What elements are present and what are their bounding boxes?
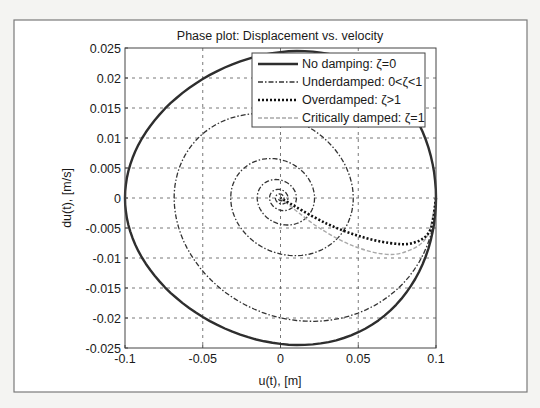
x-tick-label: 0.1 bbox=[427, 352, 444, 366]
y-tick-label: 0.02 bbox=[97, 72, 121, 86]
y-tick-label: -0.015 bbox=[86, 282, 121, 296]
x-tick-label: 0 bbox=[277, 352, 284, 366]
y-tick-label: 0.015 bbox=[90, 102, 121, 116]
chart-title: Phase plot: Displacement vs. velocity bbox=[177, 29, 384, 43]
x-tick-label: -0.05 bbox=[189, 352, 218, 366]
legend-label: Overdamped: ζ>1 bbox=[302, 93, 401, 107]
legend-label: No damping: ζ=0 bbox=[302, 57, 396, 71]
legend-label: Underdamped: 0<ζ<1 bbox=[302, 75, 422, 89]
y-tick-label: -0.01 bbox=[93, 252, 122, 266]
y-tick-label: 0.025 bbox=[90, 42, 121, 56]
y-tick-label: -0.005 bbox=[86, 222, 121, 236]
figure: Phase plot: Displacement vs. velocity 0.… bbox=[0, 0, 540, 408]
x-axis-label: u(t), [m] bbox=[258, 374, 301, 388]
x-tick-label: 0.05 bbox=[346, 352, 370, 366]
y-tick-label: 0.01 bbox=[97, 132, 121, 146]
y-tick-label: -0.02 bbox=[93, 312, 122, 326]
legend: No damping: ζ=0Underdamped: 0<ζ<1Overdam… bbox=[252, 53, 425, 127]
y-axis-label: du(t), [m/s] bbox=[60, 168, 74, 228]
legend-label: Critically damped: ζ=1 bbox=[302, 111, 425, 125]
x-tick-label: -0.1 bbox=[114, 352, 136, 366]
y-tick-label: 0 bbox=[114, 192, 121, 206]
y-tick-label: 0.005 bbox=[90, 162, 121, 176]
